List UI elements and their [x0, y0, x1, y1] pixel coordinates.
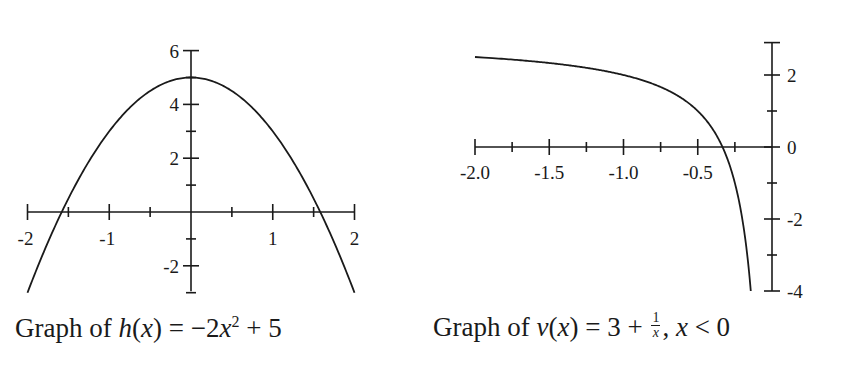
x-tick-label: -1 — [99, 228, 115, 249]
x-tick-label: 1 — [268, 228, 278, 249]
x-tick-label: -2.0 — [460, 162, 490, 183]
y-tick-label: 2 — [170, 148, 180, 169]
y-tick-label: -2 — [163, 256, 179, 277]
y-tick-label: 6 — [170, 41, 180, 62]
y-tick-label: -2 — [787, 209, 803, 230]
y-tick-label: 4 — [170, 94, 180, 115]
y-tick-label: -4 — [787, 281, 803, 302]
x-tick-label: -0.5 — [683, 162, 713, 183]
fraction-one-over-x: 1x — [651, 311, 660, 340]
x-tick-label: -2 — [18, 228, 34, 249]
caption-h: Graph of h(x) = −2x2 + 5 — [15, 314, 282, 342]
x-tick-label: -1.5 — [534, 162, 564, 183]
caption-v: Graph of v(x) = 3 + 1x, x < 0 — [433, 314, 730, 344]
x-tick-label: 2 — [350, 228, 360, 249]
x-tick-label: -1.0 — [608, 162, 638, 183]
y-tick-label: 0 — [787, 137, 797, 158]
y-tick-label: 2 — [787, 65, 797, 86]
